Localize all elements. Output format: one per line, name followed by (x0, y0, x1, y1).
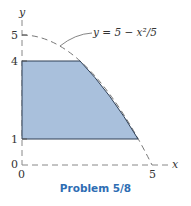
x-tick-5: 5 (149, 168, 156, 181)
shaded-region (22, 61, 138, 139)
x-tick-0: 0 (18, 168, 25, 181)
y-axis-label: y (18, 6, 26, 19)
diagram-canvas: y 5 4 1 0 0 5 x y = 5 − x²/5 (0, 0, 191, 206)
y-tick-5: 5 (11, 29, 18, 42)
x-axis-label: x (172, 158, 179, 171)
curve-equation-label: y = 5 − x²/5 (92, 26, 157, 38)
y-tick-1: 1 (11, 133, 18, 146)
figure-caption: Problem 5/8 (0, 182, 191, 194)
y-tick-0: 0 (11, 158, 18, 171)
y-tick-4: 4 (11, 55, 18, 68)
label-leader (60, 33, 92, 46)
